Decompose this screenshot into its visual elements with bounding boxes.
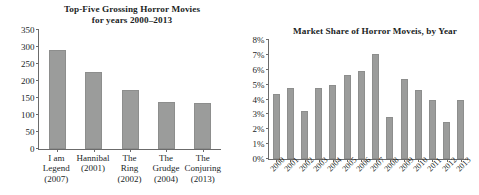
left-chart-panel: Top-Five Grossing Horror Movies for year… [0,0,238,195]
x-axis-year-slot: 2013 [454,162,468,192]
x-axis-year-slot: 2002 [297,162,311,192]
left-chart-x-axis-labels: I amLegend(2007)Hannibal(2001)TheRing(20… [38,153,221,184]
x-axis-category-label: TheConjuring(2013) [184,153,221,184]
right-chart-x-ticks [269,40,468,159]
x-axis-category-label-line: The [184,153,221,163]
right-chart-title-line1: Market Share of Horror Moveis, by Year [293,26,457,36]
y-axis-tick-label: 2% [253,125,270,134]
x-axis-tick-mark [130,149,131,152]
left-chart-plot-area: 050100150200250300350 [38,30,221,150]
x-axis-category-label-line: Hannibal [75,153,112,163]
x-axis-year-slot: 2004 [325,162,339,192]
x-axis-year-slot: 2008 [382,162,396,192]
y-axis-tick-label: 4% [253,95,270,104]
left-chart-x-ticks [39,30,221,149]
x-axis-category-label: I amLegend(2007) [38,153,75,184]
x-axis-category-label-line: (2002) [111,174,148,184]
left-chart-y-axis-label: Inflation-adjusted Gross, in Millions of… [1,27,19,152]
x-axis-year-slot: 2000 [268,162,282,192]
x-axis-category-label-line: (2013) [184,174,221,184]
x-axis-category-label-line: The [111,153,148,163]
x-axis-year-slot: 2005 [339,162,353,192]
x-axis-category-label-line: (2004) [148,174,185,184]
y-axis-tick-label: 100 [21,111,39,120]
x-axis-year-slot: 2012 [439,162,453,192]
y-axis-tick-label: 7% [253,50,270,59]
left-chart-title: Top-Five Grossing Horror Movies for year… [34,4,230,25]
x-axis-category-label-line: (2001) [75,163,112,173]
right-chart-title: Market Share of Horror Moveis, by Year [276,26,474,37]
x-axis-category-label-line: Ring [111,163,148,173]
y-axis-tick-label: 0% [253,155,270,164]
y-axis-tick-label: 150 [21,94,39,103]
y-axis-tick-label: 250 [21,60,39,69]
x-axis-category-label-line: Legend [38,163,75,173]
left-chart-subtitle: for years 2000–2013 [34,15,230,26]
x-axis-year-slot: 2011 [425,162,439,192]
x-axis-year-slot: 2010 [411,162,425,192]
x-axis-tick-mark [203,149,204,152]
x-axis-category-label: TheRing(2002) [111,153,148,184]
x-axis-year-slot: 2006 [354,162,368,192]
x-axis-tick-mark [94,149,95,152]
x-axis-year-slot: 2009 [397,162,411,192]
x-axis-category-label-line: Conjuring [184,163,221,173]
x-axis-category-label: Hannibal(2001) [75,153,112,184]
left-chart-title-line1: Top-Five Grossing Horror Movies [64,4,200,14]
x-axis-category-label-line: (2007) [38,174,75,184]
x-axis-category-label-line: The [148,153,185,163]
x-axis-category-label-line: I am [38,153,75,163]
y-axis-tick-label: 5% [253,80,270,89]
x-axis-category-label-line: Grudge [148,163,185,173]
x-axis-tick-mark [166,149,167,152]
x-axis-year-slot: 2007 [368,162,382,192]
y-axis-tick-label: 3% [253,110,270,119]
y-axis-tick-label: 50 [26,128,40,137]
x-axis-year-slot: 2001 [282,162,296,192]
right-chart-panel: Market Share of Horror Moveis, by Year 0… [240,0,479,195]
right-chart-plot-area: 0%1%2%3%4%5%6%7%8% [268,40,468,160]
y-axis-tick-label: 1% [253,140,270,149]
y-axis-tick-label: 8% [253,36,270,45]
two-bar-charts-figure: Top-Five Grossing Horror Movies for year… [0,0,479,195]
right-chart-x-axis-labels: 2000200120022003200420052006200720082009… [268,162,468,192]
x-axis-tick-mark [57,149,58,152]
y-axis-tick-label: 200 [21,77,39,86]
y-axis-tick-label: 350 [21,26,39,35]
y-axis-label-line2: in Millions of Dollars [0,51,1,128]
y-axis-tick-label: 6% [253,65,270,74]
x-axis-category-label: TheGrudge(2004) [148,153,185,184]
x-axis-year-slot: 2003 [311,162,325,192]
y-axis-tick-label: 300 [21,43,39,52]
